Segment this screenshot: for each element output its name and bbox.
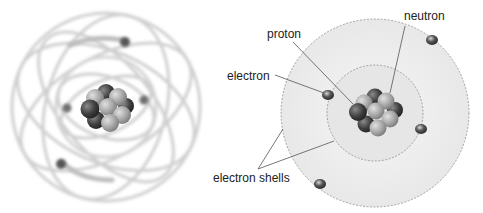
electron-shells-label: electron shells (213, 171, 290, 185)
proton-label: proton (267, 27, 301, 41)
atom-3d-blurred (0, 1, 214, 213)
neutron-label: neutron (404, 9, 445, 23)
electron (314, 179, 326, 189)
electron (322, 90, 334, 100)
electron (63, 104, 72, 113)
shell-leader-outer (258, 129, 283, 169)
atom-diagram-canvas: neutron proton electron electron shells (0, 0, 483, 213)
electron (56, 159, 66, 169)
electron-label: electron (227, 69, 270, 83)
proton (101, 114, 119, 132)
atom-shell-model: neutron proton electron electron shells (213, 9, 469, 207)
neutron (349, 103, 367, 121)
electron (120, 37, 130, 47)
electron (426, 35, 438, 45)
proton (370, 120, 387, 137)
neutron (81, 100, 100, 119)
electron (140, 96, 149, 105)
electron (415, 124, 427, 134)
